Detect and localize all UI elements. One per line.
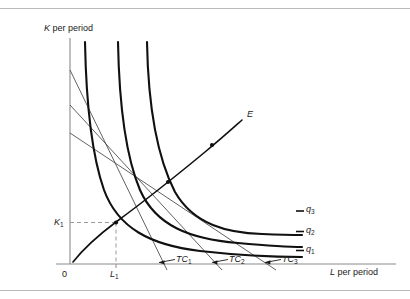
expansion-path-label: E xyxy=(247,110,253,119)
tc2-symbol: TC xyxy=(229,254,241,264)
isoquant-curve-q3 xyxy=(147,42,302,235)
tc1-subscript: 1 xyxy=(188,258,192,265)
q2-subscript: 2 xyxy=(311,229,315,236)
x-axis-label-text: per period xyxy=(335,267,378,277)
x-tick-label-l1: L1 xyxy=(110,270,119,279)
q1-subscript: 1 xyxy=(311,248,315,255)
y-axis-label-text: per period xyxy=(50,23,93,33)
tc1-symbol: TC xyxy=(176,254,188,264)
tc2-subscript: 2 xyxy=(241,258,245,265)
k1-subscript: 1 xyxy=(60,221,64,228)
tangency-point-q2 xyxy=(166,180,170,184)
tc3-subscript: 3 xyxy=(294,258,298,265)
isocost-label-tc1: TC1 xyxy=(176,255,192,264)
isoquant-label-q1: q1 xyxy=(306,245,315,254)
e-symbol: E xyxy=(247,109,253,119)
y-axis-label: K per period xyxy=(44,24,93,33)
tangency-point-q1 xyxy=(114,220,118,224)
y-tick-label-k1: K1 xyxy=(54,218,64,227)
isocost-label-tc3: TC3 xyxy=(282,255,298,264)
tangency-point-q3 xyxy=(210,143,214,147)
isocost-line-tc3 xyxy=(70,133,276,270)
isoquant-curve-q1 xyxy=(85,42,302,257)
tc3-symbol: TC xyxy=(282,254,294,264)
isoquant-label-q3: q3 xyxy=(306,205,315,214)
isoquant-label-q2: q2 xyxy=(306,226,315,235)
isoquant-plot xyxy=(0,0,410,299)
figure-canvas: K per period L per period 0 K1 L1 E q1 q… xyxy=(0,0,410,299)
isocost-line-tc2 xyxy=(70,105,222,270)
origin-label: 0 xyxy=(62,270,67,279)
q3-subscript: 3 xyxy=(311,208,315,215)
l1-subscript: 1 xyxy=(115,273,119,280)
isocost-label-tc2: TC2 xyxy=(229,255,245,264)
x-axis-label: L per period xyxy=(330,268,378,277)
